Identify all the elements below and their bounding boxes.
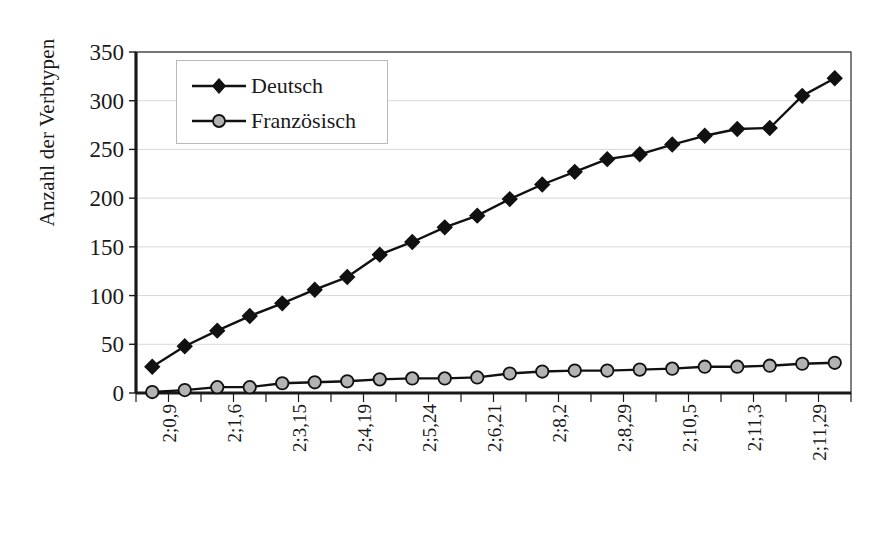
data-point[interactable] [438, 220, 452, 234]
legend-item-deutsch[interactable]: Deutsch [177, 68, 387, 103]
data-point[interactable] [244, 381, 256, 393]
diamond-marker-icon [191, 76, 247, 96]
x-tick-label: 2;8,2 [550, 404, 569, 443]
chart-legend: Deutsch Französisch [176, 60, 388, 144]
data-point[interactable] [373, 247, 387, 261]
data-point[interactable] [568, 165, 582, 179]
data-point[interactable] [600, 152, 614, 166]
data-point[interactable] [471, 371, 483, 383]
x-tick-label: 2;4,19 [355, 404, 374, 452]
x-tick-label: 2;3,15 [290, 404, 309, 452]
data-point[interactable] [439, 372, 451, 384]
x-tick-label: 2;5,24 [420, 404, 439, 452]
data-point[interactable] [536, 365, 548, 377]
circle-marker-icon [191, 111, 247, 131]
data-point[interactable] [535, 177, 549, 191]
data-point[interactable] [828, 71, 842, 85]
data-point[interactable] [145, 359, 159, 373]
data-point[interactable] [406, 372, 418, 384]
legend-item-franzoesisch[interactable]: Französisch [177, 103, 387, 138]
x-axis-tick-labels: 2;0,92;1,62;3,152;4,192;5,242;6,212;8,22… [0, 404, 869, 504]
legend-label-franzoesisch: Französisch [247, 110, 356, 132]
data-point[interactable] [275, 296, 289, 310]
data-point[interactable] [341, 375, 353, 387]
x-tick-label: 2;11,29 [810, 404, 829, 461]
data-point[interactable] [796, 358, 808, 370]
data-point[interactable] [634, 363, 646, 375]
data-point[interactable] [179, 384, 191, 396]
data-point[interactable] [243, 309, 257, 323]
data-point[interactable] [699, 360, 711, 372]
data-point[interactable] [146, 386, 158, 398]
x-tick-label: 2;11,3 [745, 404, 764, 451]
data-point[interactable] [601, 364, 613, 376]
data-point[interactable] [698, 129, 712, 143]
x-tick-label: 2;0,9 [160, 404, 179, 443]
data-point[interactable] [829, 357, 841, 369]
data-point[interactable] [503, 192, 517, 206]
data-point[interactable] [211, 381, 223, 393]
data-point[interactable] [470, 208, 484, 222]
x-tick-label: 2;10,5 [680, 404, 699, 452]
data-point[interactable] [276, 377, 288, 389]
data-point[interactable] [731, 360, 743, 372]
data-point[interactable] [340, 270, 354, 284]
x-tick-label: 2;1,6 [225, 404, 244, 443]
data-point[interactable] [178, 339, 192, 353]
data-point[interactable] [308, 283, 322, 297]
data-point[interactable] [730, 122, 744, 136]
data-point[interactable] [504, 367, 516, 379]
x-tick-label: 2;6,21 [485, 404, 504, 452]
chart-container: Anzahl der Verbtypen 0501001502002503003… [0, 0, 869, 555]
data-point[interactable] [569, 364, 581, 376]
data-point[interactable] [374, 373, 386, 385]
legend-label-deutsch: Deutsch [247, 75, 323, 97]
x-tick-label: 2;8,29 [615, 404, 634, 452]
data-point[interactable] [309, 376, 321, 388]
data-point[interactable] [666, 362, 678, 374]
data-point[interactable] [764, 360, 776, 372]
data-point[interactable] [210, 323, 224, 337]
